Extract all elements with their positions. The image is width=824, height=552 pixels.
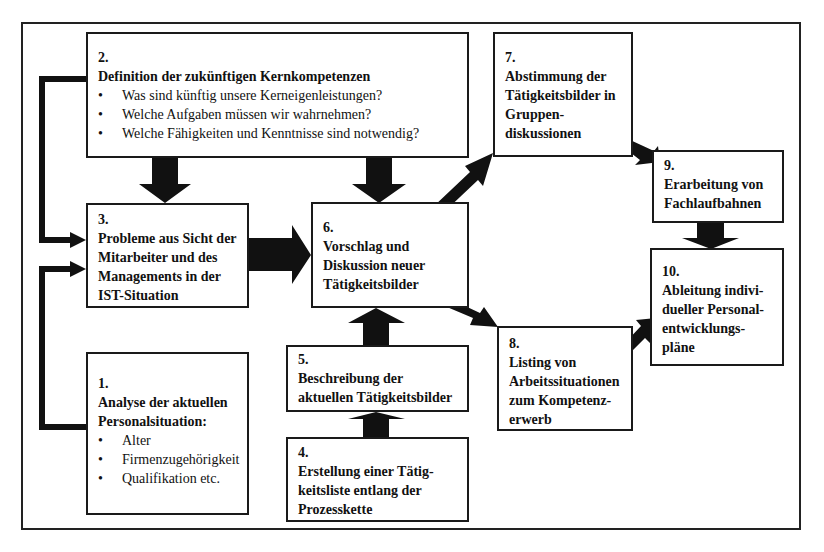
step-5-number: 5. <box>298 350 457 369</box>
step-1-title: Analyse der aktuellen Personalsituation: <box>98 393 237 431</box>
step-3-title: Probleme aus Sicht der Mitarbeiter und d… <box>98 229 237 305</box>
step-2-title: Definition der zukünftigen Kernkompetenz… <box>98 67 457 86</box>
step-8-title: Listing von Arbeitssituationen zum Kompe… <box>509 353 621 429</box>
step-9-number: 9. <box>664 156 772 175</box>
step-5-box: 5. Beschreibung der aktuellen Tätigkeits… <box>286 345 469 412</box>
step-6-number: 6. <box>323 218 457 237</box>
step-2-bullet: Welche Fähigkeiten und Kenntnisse sind n… <box>98 124 457 143</box>
step-3-number: 3. <box>98 210 237 229</box>
step-10-number: 10. <box>662 262 772 281</box>
step-2-bullet: Was sind künftig unsere Kerneigenleistun… <box>98 86 457 105</box>
step-1-bullet: Firmenzugehörigkeit <box>98 450 237 469</box>
step-4-box: 4. Erstellung einer Tätig-keitsliste ent… <box>286 437 469 522</box>
step-4-number: 4. <box>298 443 457 462</box>
step-6-title: Vorschlag und Diskussion neuer Tätigkeit… <box>323 237 457 294</box>
step-1-box: 1. Analyse der aktuellen Personalsituati… <box>86 352 249 515</box>
step-2-number: 2. <box>98 48 457 67</box>
step-8-box: 8. Listing von Arbeitssituationen zum Ko… <box>497 326 633 431</box>
step-4-title: Erstellung einer Tätig-keitsliste entlan… <box>298 462 457 519</box>
step-9-title: Erarbeitung von Fachlaufbahnen <box>664 175 772 213</box>
step-1-number: 1. <box>98 374 237 393</box>
step-6-box: 6. Vorschlag und Diskussion neuer Tätigk… <box>311 202 469 308</box>
step-1-bullet: Alter <box>98 431 237 450</box>
step-9-box: 9. Erarbeitung von Fachlaufbahnen <box>652 150 784 223</box>
step-7-title: Abstimmung der Tätigkeitsbilder in Grupp… <box>505 67 621 143</box>
step-7-box: 7. Abstimmung der Tätigkeitsbilder in Gr… <box>493 32 633 157</box>
step-1-bullet: Qualifikation etc. <box>98 469 237 488</box>
step-5-title: Beschreibung der aktuellen Tätigkeitsbil… <box>298 369 457 407</box>
step-3-box: 3. Probleme aus Sicht der Mitarbeiter un… <box>86 203 249 308</box>
step-7-number: 7. <box>505 48 621 67</box>
step-1-bullets: Alter Firmenzugehörigkeit Qualifikation … <box>98 431 237 488</box>
step-2-bullets: Was sind künftig unsere Kerneigenleistun… <box>98 86 457 143</box>
step-10-title: Ableitung indivi-dueller Personal-entwic… <box>662 281 772 357</box>
step-10-box: 10. Ableitung indivi-dueller Personal-en… <box>650 248 784 366</box>
step-2-bullet: Welche Aufgaben müssen wir wahrnehmen? <box>98 105 457 124</box>
step-2-box: 2. Definition der zukünftigen Kernkompet… <box>86 32 469 158</box>
step-8-number: 8. <box>509 334 621 353</box>
